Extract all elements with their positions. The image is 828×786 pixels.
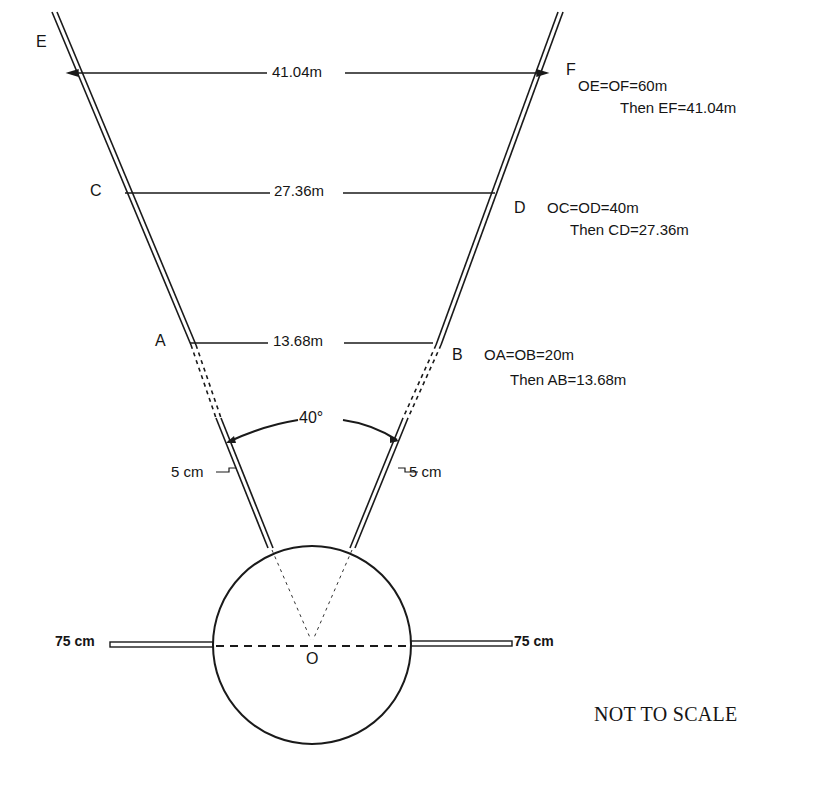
- point-label-d: D: [514, 200, 526, 216]
- annotation-cd-result: Then CD=27.36m: [570, 222, 689, 237]
- tube-width-right-label: 5 cm: [409, 464, 442, 479]
- right-arm: [411, 641, 512, 646]
- point-label-a: A: [155, 333, 166, 349]
- radius-lines: [272, 550, 352, 640]
- tube-width-left-label: 5 cm: [171, 464, 204, 479]
- point-label-c: C: [90, 183, 102, 199]
- point-label-b: B: [452, 347, 463, 363]
- point-label-e: E: [36, 34, 47, 50]
- annotation-ab-given: OA=OB=20m: [484, 347, 574, 362]
- span-label-ef: 41.04m: [272, 64, 322, 79]
- arm-left-label: 75 cm: [55, 634, 95, 648]
- annotation-ef-result: Then EF=41.04m: [620, 100, 736, 115]
- not-to-scale-note: NOT TO SCALE: [594, 703, 738, 726]
- annotation-cd-given: OC=OD=40m: [547, 200, 639, 215]
- annotation-ef-given: OE=OF=60m: [578, 78, 667, 93]
- span-label-ab: 13.68m: [273, 333, 323, 348]
- left-arm: [110, 642, 213, 647]
- geometry-figure: [0, 0, 828, 786]
- annotation-ab-result: Then AB=13.68m: [510, 372, 626, 387]
- span-label-cd: 27.36m: [274, 183, 324, 198]
- point-label-o: O: [306, 651, 318, 667]
- central-circle: [213, 546, 411, 744]
- point-label-f: F: [566, 62, 576, 78]
- arm-right-label: 75 cm: [514, 634, 554, 648]
- left-ray: [52, 12, 273, 548]
- angle-label: 40°: [299, 410, 323, 426]
- right-ray: [350, 12, 563, 548]
